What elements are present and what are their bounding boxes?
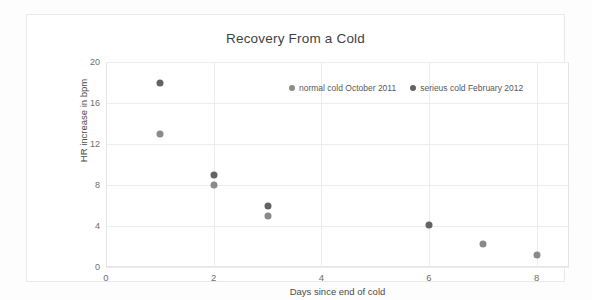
legend-marker-icon [289,85,295,91]
y-tick-label: 8 [74,180,100,190]
y-tick-label: 16 [74,98,100,108]
x-tick-label: 2 [211,272,216,283]
data-point [479,241,486,248]
data-point [210,182,217,189]
legend-item[interactable]: normal cold October 2011 [289,83,396,93]
chart-page: Recovery From a Cold HR increase in bpm … [0,0,592,300]
chart-legend: normal cold October 2011serieus cold Feb… [289,83,523,93]
y-axis-ticks: 048121620 [70,62,100,267]
data-point [426,221,433,228]
data-point [210,171,217,178]
gridline-vertical [537,62,538,267]
gridline-horizontal [106,62,569,63]
x-tick-label: 4 [319,272,324,283]
gridline-horizontal [106,144,569,145]
y-tick-label: 20 [74,57,100,67]
x-axis-ticks: 02468 [106,272,569,286]
data-point [156,130,163,137]
legend-item[interactable]: serieus cold February 2012 [410,83,523,93]
legend-label: normal cold October 2011 [299,83,396,93]
chart-title: Recovery From a Cold [27,31,564,46]
legend-label: serieus cold February 2012 [420,83,523,93]
x-tick-label: 8 [534,272,539,283]
gridline-vertical [214,62,215,267]
y-tick-label: 0 [74,262,100,272]
gridline-horizontal [106,267,569,268]
data-point [264,212,271,219]
x-tick-label: 0 [103,272,108,283]
data-point [156,79,163,86]
gridline-horizontal [106,226,569,227]
data-point [533,251,540,258]
gridline-horizontal [106,185,569,186]
y-tick-label: 4 [74,221,100,231]
chart-frame: Recovery From a Cold HR increase in bpm … [26,14,565,282]
legend-marker-icon [410,85,416,91]
data-point [264,202,271,209]
y-tick-label: 12 [74,139,100,149]
x-tick-label: 6 [426,272,431,283]
gridline-horizontal [106,103,569,104]
x-axis-label: Days since end of cold [106,286,569,297]
